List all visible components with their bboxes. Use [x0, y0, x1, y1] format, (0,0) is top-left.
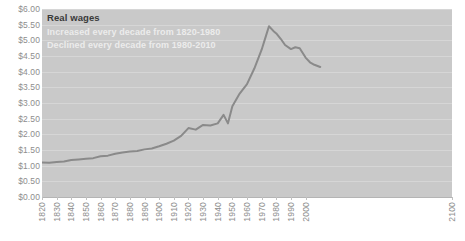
x-tick-label: 1850	[81, 202, 91, 222]
y-tick-label: $2.50	[2, 114, 40, 124]
x-tick-label: 1820	[37, 202, 47, 222]
y-tick-label: $4.50	[2, 51, 40, 61]
x-tick-label: 1830	[52, 202, 62, 222]
chart-subtitle-declined: Declined every decade from 1980-2010	[47, 40, 220, 50]
x-tick-label: 1860	[96, 202, 106, 222]
x-tick-mark	[452, 197, 453, 200]
x-tick-label: 1920	[183, 202, 193, 222]
y-tick-label: $4.00	[2, 67, 40, 77]
x-tick-label: 1970	[257, 202, 267, 222]
y-tick-label: $3.50	[2, 82, 40, 92]
x-tick-label: 1930	[198, 202, 208, 222]
x-tick-mark	[174, 197, 175, 200]
chart-subtitle-increased: Increased every decade from 1820-1980	[47, 27, 220, 37]
x-tick-mark	[57, 197, 58, 200]
x-tick-label: 2000	[301, 202, 311, 222]
x-tick-mark	[262, 197, 263, 200]
x-tick-mark	[203, 197, 204, 200]
x-tick-mark	[232, 197, 233, 200]
x-tick-label: 1840	[66, 202, 76, 222]
y-tick-label: $0.00	[2, 192, 40, 202]
chart-title: Real wages	[47, 12, 220, 23]
x-tick-mark	[42, 197, 43, 200]
x-tick-mark	[306, 197, 307, 200]
y-tick-label: $0.50	[2, 176, 40, 186]
x-tick-label: 1990	[286, 202, 296, 222]
x-tick-mark	[145, 197, 146, 200]
x-tick-label: 1980	[271, 202, 281, 222]
y-tick-label: $3.00	[2, 98, 40, 108]
x-tick-label: 1900	[154, 202, 164, 222]
x-tick-mark	[291, 197, 292, 200]
x-tick-mark	[247, 197, 248, 200]
x-tick-label: 1940	[213, 202, 223, 222]
title-block: Real wages Increased every decade from 1…	[47, 12, 220, 53]
y-tick-label: $5.00	[2, 35, 40, 45]
x-tick-mark	[130, 197, 131, 200]
x-tick-label: 1890	[140, 202, 150, 222]
x-tick-mark	[188, 197, 189, 200]
y-tick-label: $2.00	[2, 129, 40, 139]
x-tick-mark	[101, 197, 102, 200]
x-tick-label: 1880	[125, 202, 135, 222]
x-tick-mark	[159, 197, 160, 200]
x-tick-mark	[71, 197, 72, 200]
y-axis-tick-labels: $6.00$5.50$5.00$4.50$4.00$3.50$3.00$2.50…	[0, 0, 40, 241]
x-tick-mark	[115, 197, 116, 200]
x-tick-label: 2100	[447, 202, 457, 222]
y-tick-label: $6.00	[2, 4, 40, 14]
y-tick-label: $5.50	[2, 20, 40, 30]
x-tick-mark	[218, 197, 219, 200]
x-tick-mark	[86, 197, 87, 200]
real-wages-chart: $6.00$5.50$5.00$4.50$4.00$3.50$3.00$2.50…	[0, 0, 465, 241]
x-tick-label: 1960	[242, 202, 252, 222]
x-tick-label: 1950	[227, 202, 237, 222]
x-tick-label: 1870	[110, 202, 120, 222]
x-tick-mark	[276, 197, 277, 200]
x-tick-label: 1910	[169, 202, 179, 222]
y-tick-label: $1.00	[2, 161, 40, 171]
y-tick-label: $1.50	[2, 145, 40, 155]
